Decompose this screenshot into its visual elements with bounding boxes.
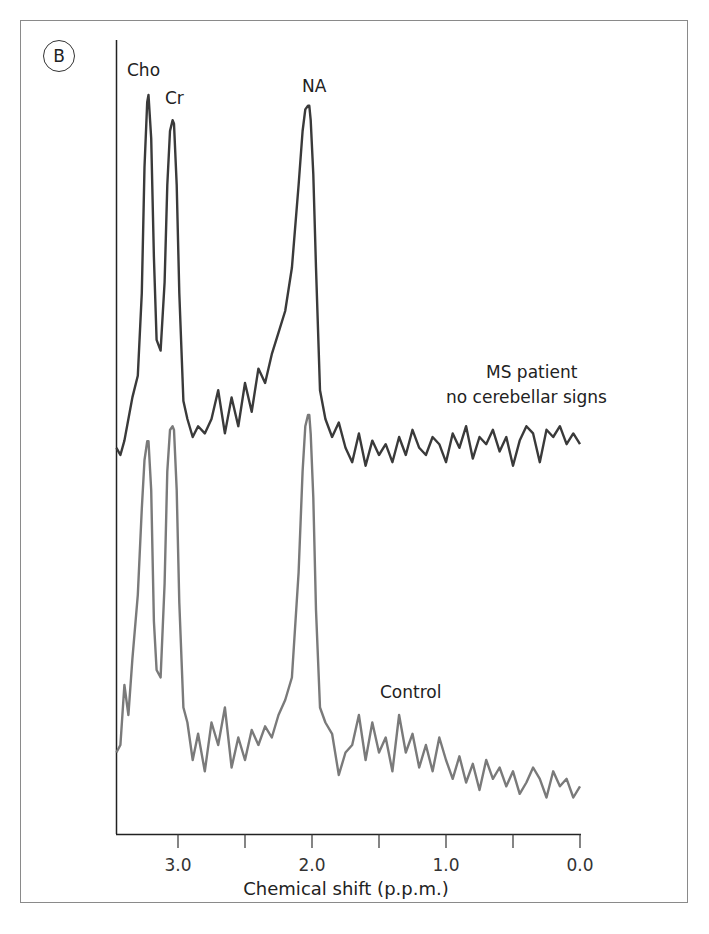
spectrum-plot bbox=[0, 0, 709, 934]
x-tick-label-3: 3.0 bbox=[164, 857, 191, 874]
x-tick-label-1: 1.0 bbox=[432, 857, 459, 874]
series-label-ms-line2: no cerebellar signs bbox=[446, 389, 607, 406]
series-line-ms-patient bbox=[116, 95, 580, 466]
x-tick-label-2: 2.0 bbox=[298, 857, 325, 874]
series-label-control: Control bbox=[380, 684, 441, 701]
peak-label-cr: Cr bbox=[165, 90, 184, 107]
peak-label-cho: Cho bbox=[127, 62, 160, 79]
x-tick-label-0: 0.0 bbox=[566, 857, 593, 874]
series-line-control bbox=[116, 415, 580, 798]
peak-label-na: NA bbox=[302, 78, 326, 95]
series-label-ms-line1: MS patient bbox=[486, 364, 577, 381]
x-axis-ticks bbox=[178, 834, 580, 848]
x-axis-title: Chemical shift (p.p.m.) bbox=[243, 880, 448, 898]
